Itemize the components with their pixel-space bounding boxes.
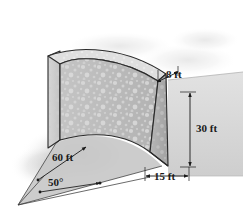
label-radius: 60 ft — [52, 151, 73, 163]
label-angle: 50° — [48, 176, 63, 188]
label-top-thickness: 8 ft — [166, 68, 182, 80]
dam-diagram-figure: 8 ft 30 ft 15 ft 60 ft 50° — [0, 0, 243, 221]
dam-left-end-face — [48, 51, 60, 148]
label-base-thickness: 15 ft — [154, 170, 175, 182]
label-height: 30 ft — [196, 122, 217, 134]
